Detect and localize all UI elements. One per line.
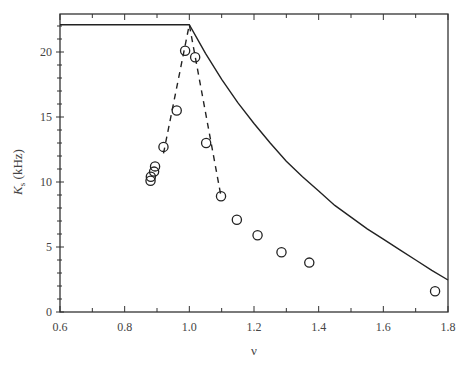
axis-ticks [56, 14, 448, 312]
data-point-circle [172, 106, 181, 115]
data-point-circle [232, 215, 241, 224]
y-tick-label: 10 [40, 175, 52, 189]
y-tick-label: 15 [40, 110, 52, 124]
data-point-circle [253, 231, 262, 240]
x-axis-label: ν [251, 343, 257, 358]
x-tick-label: 1.2 [247, 320, 262, 334]
data-point-circle [191, 53, 200, 62]
data-point-circle [150, 162, 159, 171]
data-point-circle [202, 138, 211, 147]
data-point-circle [305, 258, 314, 267]
x-tick-label: 1.8 [441, 320, 456, 334]
y-tick-label: 0 [46, 305, 52, 319]
y-tick-label: 20 [40, 45, 52, 59]
axis-tick-labels: 0.60.81.01.21.41.61.805101520 [40, 45, 456, 334]
series-lines [60, 25, 448, 280]
data-point-circle [181, 46, 190, 55]
x-tick-label: 0.6 [53, 320, 68, 334]
plot-frame [60, 14, 448, 312]
plot-border [60, 14, 448, 312]
data-points [146, 46, 440, 296]
y-axis-label-unit: (kHz) [10, 149, 25, 183]
y-tick-label: 5 [46, 240, 52, 254]
data-point-circle [430, 287, 439, 296]
x-tick-label: 1.6 [376, 320, 391, 334]
chart: 0.60.81.01.21.41.61.805101520 ν Ks (kHz) [0, 0, 470, 367]
y-axis-label: Ks (kHz) [10, 149, 27, 196]
x-tick-label: 1.4 [311, 320, 326, 334]
x-tick-label: 0.8 [117, 320, 132, 334]
theory-curve [60, 25, 448, 280]
data-point-circle [277, 248, 286, 257]
x-tick-label: 1.0 [182, 320, 197, 334]
